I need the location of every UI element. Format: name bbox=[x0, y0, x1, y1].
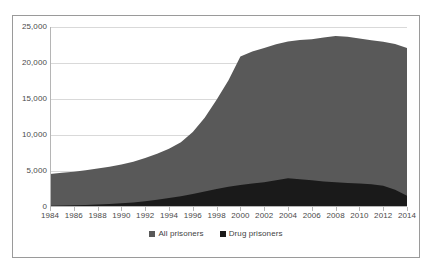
legend-swatch-icon bbox=[220, 231, 226, 237]
x-axis-labels: 1984198619881990199219941996199820002002… bbox=[50, 211, 407, 223]
y-axis-tick-label: 15,000 bbox=[1, 95, 47, 103]
plot-area bbox=[50, 27, 407, 207]
legend-item[interactable]: All prisoners bbox=[149, 229, 203, 238]
series-area-chart bbox=[50, 27, 407, 207]
chart-frame: 05,00010,00015,00020,00025,000 198419861… bbox=[12, 15, 420, 258]
y-axis-tick-label: 25,000 bbox=[1, 23, 47, 31]
legend-label: Drug prisoners bbox=[229, 229, 283, 238]
y-axis-tick-label: 10,000 bbox=[1, 131, 47, 139]
legend-item[interactable]: Drug prisoners bbox=[220, 229, 283, 238]
series-area-all-prisoners bbox=[50, 36, 407, 207]
legend-label: All prisoners bbox=[158, 229, 203, 238]
legend-swatch-icon bbox=[149, 231, 155, 237]
chart-legend: All prisonersDrug prisoners bbox=[13, 229, 419, 238]
x-axis-tick-label: 2014 bbox=[392, 211, 422, 221]
y-axis-tick-label: 20,000 bbox=[1, 59, 47, 67]
y-axis-tick-label: 5,000 bbox=[1, 167, 47, 175]
y-axis-line bbox=[50, 27, 51, 207]
y-axis-tick-label: 0 bbox=[1, 203, 47, 211]
x-axis-line bbox=[50, 206, 407, 207]
y-axis-labels: 05,00010,00015,00020,00025,000 bbox=[13, 27, 47, 207]
